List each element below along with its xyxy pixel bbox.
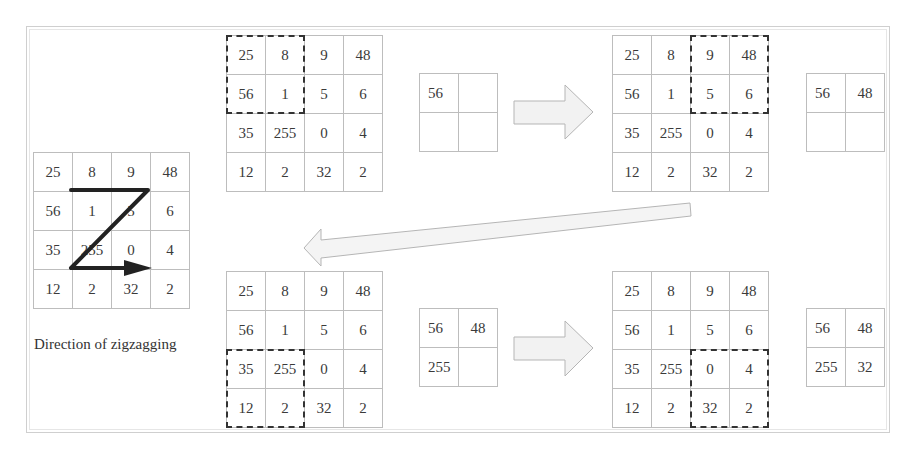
step2-matrix: 25 8 9 48 56 1 5 6 35 255 0 4 12 2 32 2 (612, 35, 769, 192)
matrix-cell: 6 (730, 75, 769, 114)
matrix-cell: 255 (652, 114, 691, 153)
matrix-cell: 2 (652, 153, 691, 192)
matrix-cell: 56 (613, 311, 652, 350)
output-cell (459, 348, 498, 387)
matrix-cell: 56 (227, 311, 266, 350)
matrix-cell: 35 (613, 114, 652, 153)
output-cell (459, 74, 498, 113)
matrix-cell: 6 (344, 75, 383, 114)
matrix-cell: 1 (266, 311, 305, 350)
matrix-cell: 1 (266, 75, 305, 114)
step3-output: 56 48 255 (419, 308, 498, 387)
matrix-cell: 25 (227, 36, 266, 75)
output-cell (459, 113, 498, 152)
matrix-cell: 4 (344, 350, 383, 389)
matrix-cell: 32 (305, 389, 344, 428)
matrix-cell: 2 (266, 389, 305, 428)
output-cell (846, 113, 885, 152)
matrix-cell: 12 (227, 389, 266, 428)
matrix-cell: 4 (730, 114, 769, 153)
matrix-cell: 25 (613, 36, 652, 75)
output-cell (420, 113, 459, 152)
matrix-cell: 1 (73, 192, 112, 231)
matrix-cell: 9 (691, 36, 730, 75)
matrix-cell: 9 (691, 272, 730, 311)
matrix-cell: 0 (305, 350, 344, 389)
matrix-cell: 48 (344, 36, 383, 75)
step4-output: 56 48 255 32 (806, 308, 885, 387)
matrix-cell: 32 (691, 153, 730, 192)
matrix-cell: 9 (305, 36, 344, 75)
matrix-cell: 6 (730, 311, 769, 350)
matrix-cell: 12 (613, 389, 652, 428)
matrix-cell: 2 (730, 389, 769, 428)
output-cell (807, 113, 846, 152)
matrix-cell: 5 (305, 311, 344, 350)
output-cell: 48 (459, 309, 498, 348)
matrix-cell: 0 (691, 114, 730, 153)
step1-matrix: 25 8 9 48 56 1 5 6 35 255 0 4 12 2 32 2 (226, 35, 383, 192)
matrix-cell: 56 (34, 192, 73, 231)
matrix-cell: 5 (112, 192, 151, 231)
matrix-cell: 8 (266, 272, 305, 311)
matrix-cell: 6 (151, 192, 190, 231)
matrix-cell: 25 (34, 153, 73, 192)
output-cell: 32 (846, 348, 885, 387)
matrix-cell: 4 (730, 350, 769, 389)
output-cell: 48 (846, 309, 885, 348)
matrix-cell: 12 (613, 153, 652, 192)
matrix-cell: 2 (151, 270, 190, 309)
matrix-cell: 4 (344, 114, 383, 153)
output-cell: 56 (807, 309, 846, 348)
matrix-cell: 0 (691, 350, 730, 389)
matrix-cell: 5 (691, 75, 730, 114)
matrix-cell: 0 (112, 231, 151, 270)
output-cell: 56 (807, 74, 846, 113)
matrix-cell: 255 (266, 350, 305, 389)
matrix-cell: 4 (151, 231, 190, 270)
matrix-cell: 32 (305, 153, 344, 192)
matrix-cell: 5 (305, 75, 344, 114)
matrix-cell: 9 (112, 153, 151, 192)
matrix-cell: 48 (730, 272, 769, 311)
matrix-cell: 56 (613, 75, 652, 114)
matrix-cell: 255 (73, 231, 112, 270)
matrix-cell: 2 (266, 153, 305, 192)
matrix-cell: 6 (344, 311, 383, 350)
matrix-cell: 32 (112, 270, 151, 309)
matrix-cell: 48 (151, 153, 190, 192)
matrix-cell: 35 (34, 231, 73, 270)
matrix-cell: 8 (73, 153, 112, 192)
matrix-cell: 2 (344, 153, 383, 192)
output-cell: 56 (420, 74, 459, 113)
output-cell: 255 (807, 348, 846, 387)
matrix-cell: 35 (227, 114, 266, 153)
matrix-cell: 2 (344, 389, 383, 428)
matrix-cell: 255 (652, 350, 691, 389)
matrix-cell: 2 (652, 389, 691, 428)
matrix-cell: 1 (652, 311, 691, 350)
matrix-cell: 8 (652, 272, 691, 311)
matrix-cell: 0 (305, 114, 344, 153)
step2-output: 56 48 (806, 73, 885, 152)
matrix-cell: 2 (730, 153, 769, 192)
zigzag-caption: Direction of zigzagging (34, 336, 176, 353)
output-cell: 48 (846, 74, 885, 113)
zigzag-matrix: 25 8 9 48 56 1 5 6 35 255 0 4 12 2 32 2 (33, 152, 190, 309)
matrix-cell: 56 (227, 75, 266, 114)
matrix-cell: 1 (652, 75, 691, 114)
matrix-cell: 48 (730, 36, 769, 75)
step3-matrix: 25 8 9 48 56 1 5 6 35 255 0 4 12 2 32 2 (226, 271, 383, 428)
matrix-cell: 12 (227, 153, 266, 192)
matrix-cell: 35 (613, 350, 652, 389)
output-cell: 56 (420, 309, 459, 348)
matrix-cell: 48 (344, 272, 383, 311)
matrix-cell: 5 (691, 311, 730, 350)
matrix-cell: 8 (652, 36, 691, 75)
matrix-cell: 32 (691, 389, 730, 428)
matrix-cell: 8 (266, 36, 305, 75)
matrix-cell: 255 (266, 114, 305, 153)
step4-matrix: 25 8 9 48 56 1 5 6 35 255 0 4 12 2 32 2 (612, 271, 769, 428)
matrix-cell: 25 (613, 272, 652, 311)
step1-output: 56 (419, 73, 498, 152)
